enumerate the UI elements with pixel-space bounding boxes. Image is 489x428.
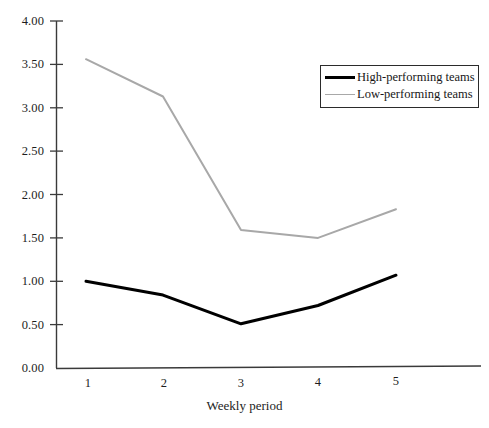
x-axis-title: Weekly period xyxy=(0,398,489,414)
y-tick-label-2-5: 2.50 xyxy=(4,144,44,159)
series-line-high-performing-teams xyxy=(86,275,396,324)
chart-legend: High-performing teams Low-performing tea… xyxy=(320,65,479,108)
x-axis-line xyxy=(56,366,481,369)
y-tick-label-0-5: 0.50 xyxy=(4,318,44,333)
y-tick-label-0: 0.00 xyxy=(4,361,44,376)
legend-label-high-performing-teams: High-performing teams xyxy=(357,71,475,84)
y-tick-label-3: 3.00 xyxy=(4,101,44,116)
legend-swatch-high-performing-teams xyxy=(325,76,355,79)
y-tick-label-2: 2.00 xyxy=(4,188,44,203)
y-tick-label-1: 1.00 xyxy=(4,274,44,289)
x-tick-label-3: 3 xyxy=(238,376,244,391)
legend-label-low-performing-teams: Low-performing teams xyxy=(357,88,473,101)
legend-item-high-performing-teams: High-performing teams xyxy=(325,69,474,86)
x-tick-label-1: 1 xyxy=(85,376,91,391)
x-tick-label-4: 4 xyxy=(315,375,321,390)
legend-item-low-performing-teams: Low-performing teams xyxy=(325,86,474,103)
x-tick-label-5: 5 xyxy=(393,374,399,389)
y-tick-label-1-5: 1.50 xyxy=(4,231,44,246)
legend-swatch-low-performing-teams xyxy=(325,94,355,96)
y-tick-label-3-5: 3.50 xyxy=(4,57,44,72)
x-tick-label-2: 2 xyxy=(161,376,167,391)
y-tick-label-4: 4.00 xyxy=(4,14,44,29)
line-chart: 4.00 3.50 3.00 2.50 2.00 1.50 1.00 0.50 … xyxy=(0,0,489,428)
